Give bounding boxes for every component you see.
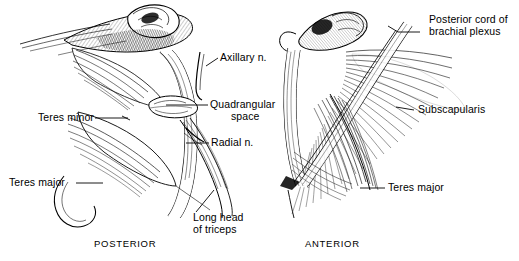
quadrangular-space-opening <box>149 96 198 118</box>
label-subscapularis: Subscapularis <box>418 104 485 116</box>
label-teres-major-left: Teres major <box>9 177 65 189</box>
caption-posterior: POSTERIOR <box>94 238 156 249</box>
label-long-head-of-triceps-line2: of triceps <box>193 224 237 236</box>
label-long-head-of-triceps-line1: Long head <box>193 212 244 224</box>
caption-anterior: ANTERIOR <box>305 238 360 249</box>
label-posterior-cord-line2: brachial plexus <box>429 26 501 38</box>
label-axillary-nerve: Axillary n. <box>220 52 267 64</box>
label-quadrangular-space-line2: space <box>231 111 260 123</box>
figure-canvas: Axillary n. Quadrangular space Radial n.… <box>0 0 519 261</box>
label-teres-major-right: Teres major <box>388 182 444 194</box>
label-posterior-cord-line1: Posterior cord of <box>429 14 508 26</box>
label-teres-minor: Teres minor <box>38 112 94 124</box>
label-radial-nerve: Radial n. <box>211 137 253 149</box>
anatomy-illustration <box>0 0 519 261</box>
label-quadrangular-space-line1: Quadrangular <box>210 99 275 111</box>
